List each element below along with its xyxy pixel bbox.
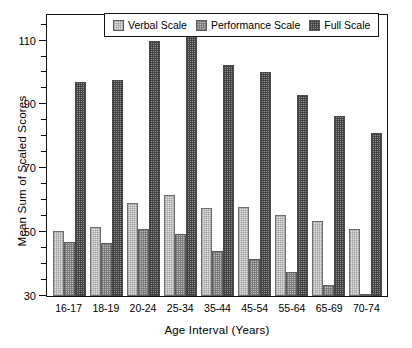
- y-axis-major-tick: [39, 103, 47, 104]
- y-axis-tick-label: 90: [24, 99, 36, 110]
- bar-full: [186, 33, 197, 296]
- bar-verbal: [275, 215, 286, 296]
- bar-full: [112, 80, 123, 296]
- bar-groups: [47, 15, 387, 296]
- bar-full: [371, 133, 382, 296]
- y-axis-minor-tick: [41, 135, 47, 136]
- bar-performance: [212, 251, 223, 296]
- x-axis-tick-labels: 16-1718-1920-2425-3435-4445-5455-6465-69…: [46, 302, 388, 314]
- y-axis-minor-tick: [41, 151, 47, 152]
- bar-group: [127, 15, 160, 296]
- y-axis-minor-tick: [41, 119, 47, 120]
- bar-full: [149, 41, 160, 296]
- performance-swatch-icon: [196, 20, 207, 31]
- bar-full: [334, 116, 345, 296]
- x-axis-tick-label: 70-74: [348, 302, 384, 314]
- bar-performance: [101, 243, 112, 296]
- y-axis-minor-tick: [41, 71, 47, 72]
- y-axis-major-tick: [39, 167, 47, 168]
- y-axis-tick-label: 30: [24, 291, 36, 302]
- x-axis-title: Age Interval (Years): [46, 324, 388, 336]
- bar-group: [53, 15, 86, 296]
- bar-performance: [286, 272, 297, 296]
- y-axis-minor-tick: [41, 279, 47, 280]
- bar-verbal: [53, 231, 64, 296]
- bar-verbal: [164, 195, 175, 296]
- y-axis-tick-label: 110: [18, 35, 36, 46]
- y-axis-minor-tick: [41, 87, 47, 88]
- legend-item-performance: Performance Scale: [196, 19, 300, 31]
- y-axis-minor-tick: [41, 263, 47, 264]
- bar-verbal: [201, 208, 212, 296]
- y-axis-minor-tick: [41, 56, 47, 57]
- chart-legend: Verbal Scale Performance Scale Full Scal…: [104, 13, 379, 37]
- y-axis-minor-tick: [41, 215, 47, 216]
- bar-chart: Mean Sum of Scaled Scores 30507090110 16…: [0, 0, 412, 348]
- bar-full: [223, 65, 234, 297]
- y-axis-major-tick: [39, 40, 47, 41]
- bar-performance: [323, 285, 334, 296]
- y-axis-minor-tick: [41, 199, 47, 200]
- bar-group: [238, 15, 271, 296]
- bar-group: [312, 15, 345, 296]
- x-axis-tick-label: 18-19: [88, 302, 124, 314]
- bar-performance: [360, 294, 371, 296]
- legend-label-performance: Performance Scale: [211, 19, 300, 31]
- y-axis-tick-label: 50: [24, 227, 36, 238]
- x-axis-tick-label: 16-17: [51, 302, 87, 314]
- bar-full: [297, 95, 308, 296]
- bar-group: [164, 15, 197, 296]
- bar-group: [90, 15, 123, 296]
- x-axis-tick-label: 35-44: [199, 302, 235, 314]
- x-axis-tick-label: 20-24: [125, 302, 161, 314]
- legend-label-full: Full Scale: [324, 19, 370, 31]
- bar-performance: [249, 259, 260, 296]
- verbal-swatch-icon: [113, 20, 124, 31]
- bar-verbal: [238, 207, 249, 296]
- y-axis-tick-label: 70: [24, 163, 36, 174]
- y-axis-minor-tick: [41, 24, 47, 25]
- bar-full: [75, 82, 86, 296]
- bar-performance: [138, 229, 149, 296]
- bar-full: [260, 72, 271, 296]
- bar-verbal: [90, 227, 101, 296]
- bar-verbal: [349, 229, 360, 296]
- legend-item-full: Full Scale: [309, 19, 370, 31]
- y-axis-major-tick: [39, 295, 47, 296]
- y-axis-major-tick: [39, 231, 47, 232]
- legend-label-verbal: Verbal Scale: [128, 19, 187, 31]
- bar-group: [201, 15, 234, 296]
- bar-performance: [175, 234, 186, 296]
- bar-performance: [64, 242, 75, 296]
- y-axis-minor-tick: [41, 183, 47, 184]
- x-axis-tick-label: 65-69: [311, 302, 347, 314]
- bar-verbal: [127, 203, 138, 296]
- x-axis-tick-label: 45-54: [237, 302, 273, 314]
- x-axis-tick-label: 25-34: [162, 302, 198, 314]
- plot-area: 30507090110: [46, 14, 388, 297]
- y-axis-minor-tick: [41, 247, 47, 248]
- x-axis-tick-label: 55-64: [274, 302, 310, 314]
- bar-group: [349, 15, 382, 296]
- legend-item-verbal: Verbal Scale: [113, 19, 187, 31]
- bar-group: [275, 15, 308, 296]
- bar-verbal: [312, 221, 323, 296]
- full-swatch-icon: [309, 20, 320, 31]
